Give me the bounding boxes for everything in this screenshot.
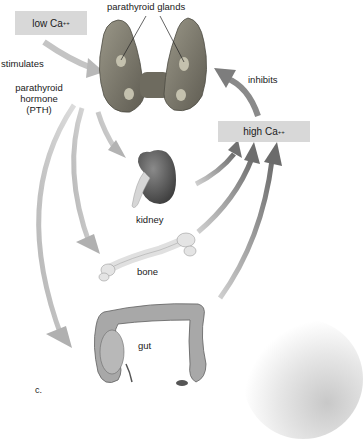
pth-arrow-kidney	[98, 112, 126, 158]
kidney-label: kidney	[136, 214, 163, 225]
gut-label: gut	[138, 340, 151, 351]
pth-label: parathyroid hormone (PTH)	[10, 82, 68, 115]
bone-to-high-ca-arrow	[198, 142, 260, 232]
pth-line-2: hormone	[10, 93, 68, 104]
low-ca-superscript: ++	[63, 20, 70, 26]
parathyroid-glands-label: parathyroid glands	[107, 1, 185, 12]
high-ca-superscript: ++	[278, 129, 285, 135]
bone-label: bone	[137, 266, 158, 277]
pth-line-1: parathyroid	[10, 82, 68, 93]
high-ca-node: high Ca++	[218, 121, 310, 142]
panel-label: c.	[35, 385, 42, 396]
parathyroid-gland-illustration	[99, 16, 206, 112]
stimulates-label: stimulates	[1, 58, 44, 69]
photo-shadow	[243, 319, 363, 439]
kidney-to-high-ca-arrow	[196, 140, 242, 184]
inhibits-label: inhibits	[248, 74, 278, 85]
pth-arrow-bone	[74, 108, 100, 254]
low-ca-node: low Ca++	[15, 11, 87, 35]
stimulates-arrow	[44, 42, 104, 78]
pth-line-3: (PTH)	[10, 104, 68, 115]
high-ca-text: high Ca	[243, 126, 277, 137]
kidney-illustration	[132, 150, 176, 208]
pth-arrow-gut	[39, 105, 74, 348]
low-ca-text: low Ca	[32, 18, 63, 29]
